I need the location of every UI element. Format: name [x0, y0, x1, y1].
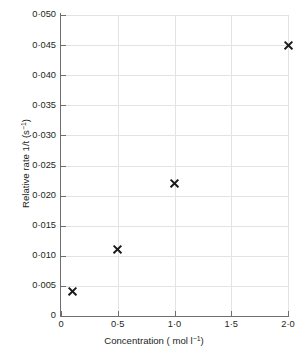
y-tick-mark: [61, 135, 66, 136]
x-axis-title-prefix: Concentration ( mol l: [104, 335, 193, 346]
data-point-marker: [283, 40, 294, 51]
y-tick-label: 0·015: [32, 221, 56, 230]
y-tick-mark: [61, 75, 66, 76]
gridline-horizontal: [61, 226, 288, 227]
y-tick-label: 0·040: [32, 71, 56, 80]
y-tick-mark: [61, 45, 66, 46]
x-tick-mark: [118, 311, 119, 317]
y-tick-label: 0: [51, 311, 56, 320]
y-tick-mark: [61, 166, 66, 167]
x-axis-title-exponent: −1: [193, 335, 201, 342]
y-tick-mark: [61, 196, 66, 197]
y-tick-label: 0·020: [32, 191, 56, 200]
y-axis-title-suffix: ): [20, 119, 31, 122]
x-axis-title-suffix: ): [201, 335, 204, 346]
y-tick-label: 0·045: [32, 41, 56, 50]
y-tick-label: 0·010: [32, 251, 56, 260]
x-tick-mark: [231, 311, 232, 317]
data-point-marker: [112, 244, 123, 255]
gridline-horizontal: [61, 196, 288, 197]
y-tick-mark: [61, 15, 66, 16]
y-tick-label: 0·025: [32, 161, 56, 170]
y-tick-label: 0·050: [32, 10, 56, 19]
gridline-horizontal: [61, 15, 288, 16]
gridline-horizontal: [61, 286, 288, 287]
data-point-marker: [67, 286, 78, 297]
x-tick-mark: [288, 311, 289, 317]
y-tick-mark: [61, 105, 66, 106]
gridline-vertical: [288, 15, 289, 316]
gridline-horizontal: [61, 105, 288, 106]
x-tick-label: 1·5: [225, 320, 238, 329]
gridline-horizontal: [61, 75, 288, 76]
gridline-horizontal: [61, 256, 288, 257]
y-tick-mark: [61, 256, 66, 257]
y-tick-mark: [61, 226, 66, 227]
gridline-horizontal: [61, 45, 288, 46]
plot-area: [61, 15, 288, 316]
scatter-chart-figure: 00·0050·0100·0150·0200·0250·0300·0350·04…: [0, 0, 308, 351]
x-axis-title: Concentration ( mol l−1): [0, 335, 308, 346]
data-point-marker: [169, 178, 180, 189]
x-tick-label: 0·5: [111, 320, 124, 329]
gridline-horizontal: [61, 135, 288, 136]
x-tick-label: 0: [58, 320, 63, 329]
y-tick-label: 0·030: [32, 131, 56, 140]
y-tick-label: 0·035: [32, 101, 56, 110]
x-tick-mark: [61, 311, 62, 317]
x-tick-label: 2·0: [281, 320, 294, 329]
gridline-horizontal: [61, 166, 288, 167]
x-tick-mark: [175, 311, 176, 317]
x-tick-label: 1·0: [168, 320, 181, 329]
y-axis-title: Relative rate 1/t (s−1): [20, 64, 31, 264]
y-tick-label: 0·005: [32, 281, 56, 290]
y-tick-mark: [61, 286, 66, 287]
y-axis-title-prefix: Relative rate 1/t (s: [20, 130, 31, 208]
y-axis-title-exponent: −1: [20, 122, 27, 130]
